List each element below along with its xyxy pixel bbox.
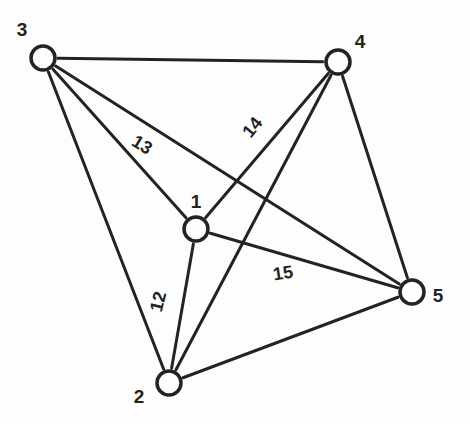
node-circle-5[interactable] — [400, 280, 424, 304]
edge-3-2 — [48, 72, 163, 369]
node-circle-3[interactable] — [31, 46, 55, 70]
edge-2-5 — [183, 297, 398, 377]
graph-figure: 12345 13141215 — [0, 0, 470, 424]
node-label-3: 3 — [17, 19, 28, 40]
node-label-2: 2 — [134, 386, 145, 407]
edge-3-5 — [56, 66, 400, 284]
node-label-4: 4 — [355, 31, 366, 52]
edges-group — [48, 58, 407, 378]
node-circle-1[interactable] — [184, 217, 208, 241]
edge-label-1-5: 15 — [272, 262, 295, 285]
edge-1-2 — [172, 244, 194, 368]
node-label-1: 1 — [191, 191, 202, 212]
edge-3-1 — [53, 69, 186, 218]
edge-label-4-1: 14 — [238, 113, 266, 141]
edge-label-1-2: 12 — [146, 289, 170, 313]
edge-3-4 — [58, 58, 323, 62]
edge-1-5 — [210, 233, 397, 288]
nodes-group — [31, 46, 424, 395]
node-labels-group: 12345 — [17, 19, 444, 407]
edge-4-5 — [343, 76, 408, 277]
node-circle-4[interactable] — [326, 50, 350, 74]
edge-label-3-1: 13 — [128, 131, 155, 158]
node-label-5: 5 — [433, 285, 444, 306]
graph-canvas: 12345 13141215 — [0, 0, 470, 424]
node-circle-2[interactable] — [157, 371, 181, 395]
